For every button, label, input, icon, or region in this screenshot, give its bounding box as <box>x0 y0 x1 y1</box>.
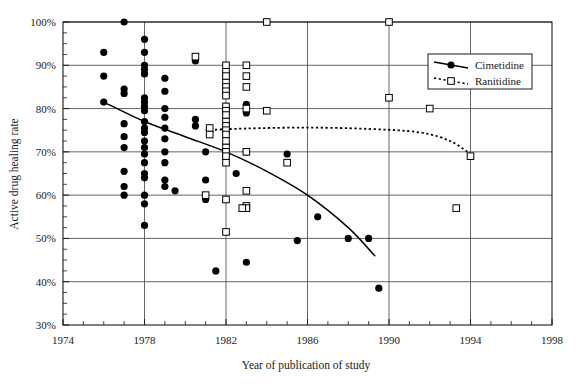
data-point-cimetidine <box>141 137 148 144</box>
x-tick-label: 1998 <box>541 334 564 346</box>
data-point-cimetidine <box>233 170 240 177</box>
y-tick-label: 60% <box>36 189 56 201</box>
data-point-cimetidine <box>100 73 107 80</box>
data-point-cimetidine <box>375 285 382 292</box>
data-point-ranitidine <box>467 153 474 160</box>
data-point-ranitidine <box>192 53 199 60</box>
data-point-cimetidine <box>121 192 128 199</box>
data-point-ranitidine <box>223 62 230 69</box>
data-point-cimetidine <box>141 107 148 114</box>
data-point-cimetidine <box>161 75 168 82</box>
data-point-cimetidine <box>100 98 107 105</box>
data-point-cimetidine <box>161 124 168 131</box>
data-point-ranitidine <box>386 19 393 26</box>
data-point-cimetidine <box>161 135 168 142</box>
y-tick-label: 80% <box>36 103 56 115</box>
data-point-cimetidine <box>161 159 168 166</box>
data-point-ranitidine <box>243 62 250 69</box>
chart-figure: 30%40%50%60%70%80%90%100%197419781982198… <box>0 0 581 387</box>
legend-label-cimetidine: Cimetidine <box>475 59 524 71</box>
data-point-cimetidine <box>121 18 128 25</box>
scatter-plot: 30%40%50%60%70%80%90%100%197419781982198… <box>0 0 581 387</box>
data-point-cimetidine <box>161 183 168 190</box>
data-point-cimetidine <box>202 148 209 155</box>
data-point-ranitidine <box>263 19 270 26</box>
data-point-cimetidine <box>202 176 209 183</box>
data-point-ranitidine <box>243 149 250 156</box>
data-point-cimetidine <box>294 237 301 244</box>
data-point-cimetidine <box>171 187 178 194</box>
legend-marker-ranitidine <box>448 78 455 85</box>
data-point-ranitidine <box>243 73 250 80</box>
data-point-ranitidine <box>426 105 433 112</box>
y-tick-label: 40% <box>36 276 56 288</box>
data-point-ranitidine <box>239 205 246 212</box>
data-point-cimetidine <box>284 150 291 157</box>
chart-legend: CimetidineRanitidine <box>428 54 532 89</box>
data-point-cimetidine <box>121 168 128 175</box>
x-tick-label: 1986 <box>297 334 320 346</box>
y-tick-label: 90% <box>36 59 56 71</box>
data-point-cimetidine <box>161 176 168 183</box>
data-point-ranitidine <box>223 153 230 160</box>
data-point-ranitidine <box>243 105 250 112</box>
data-point-cimetidine <box>141 192 148 199</box>
data-point-cimetidine <box>141 159 148 166</box>
data-point-cimetidine <box>161 88 168 95</box>
data-point-cimetidine <box>141 174 148 181</box>
y-tick-label: 50% <box>36 232 56 244</box>
x-axis-title: Year of publication of study <box>242 359 371 372</box>
data-point-ranitidine <box>386 94 393 101</box>
data-point-cimetidine <box>365 235 372 242</box>
data-point-cimetidine <box>121 90 128 97</box>
data-point-cimetidine <box>141 200 148 207</box>
data-point-cimetidine <box>121 133 128 140</box>
y-tick-label: 100% <box>30 16 56 28</box>
data-point-cimetidine <box>100 49 107 56</box>
data-point-cimetidine <box>121 183 128 190</box>
x-tick-label: 1974 <box>52 334 75 346</box>
data-point-cimetidine <box>121 120 128 127</box>
data-point-cimetidine <box>161 105 168 112</box>
data-point-ranitidine <box>453 205 460 212</box>
data-point-cimetidine <box>141 70 148 77</box>
legend-label-ranitidine: Ranitidine <box>475 75 521 87</box>
data-point-cimetidine <box>141 150 148 157</box>
y-tick-label: 70% <box>36 146 56 158</box>
data-point-cimetidine <box>192 122 199 129</box>
data-point-ranitidine <box>243 84 250 91</box>
data-point-ranitidine <box>284 159 291 166</box>
data-point-cimetidine <box>192 116 199 123</box>
data-point-cimetidine <box>121 144 128 151</box>
data-point-ranitidine <box>202 192 209 199</box>
x-tick-label: 1978 <box>134 334 157 346</box>
x-tick-label: 1994 <box>460 334 483 346</box>
data-point-cimetidine <box>141 118 148 125</box>
data-point-ranitidine <box>223 159 230 166</box>
data-point-ranitidine <box>223 196 230 203</box>
data-point-cimetidine <box>345 235 352 242</box>
data-point-cimetidine <box>161 148 168 155</box>
x-tick-label: 1982 <box>215 334 237 346</box>
data-point-cimetidine <box>141 144 148 151</box>
data-point-ranitidine <box>223 229 230 236</box>
data-point-ranitidine <box>223 131 230 138</box>
data-point-ranitidine <box>243 188 250 195</box>
data-point-ranitidine <box>223 138 230 145</box>
data-point-cimetidine <box>161 114 168 121</box>
data-point-cimetidine <box>141 36 148 43</box>
x-tick-label: 1990 <box>378 334 401 346</box>
legend-marker-cimetidine <box>447 61 454 68</box>
data-point-cimetidine <box>141 49 148 56</box>
data-point-ranitidine <box>223 92 230 99</box>
y-tick-label: 30% <box>36 319 56 331</box>
data-point-cimetidine <box>141 129 148 136</box>
data-point-ranitidine <box>223 73 230 80</box>
data-point-ranitidine <box>223 112 230 119</box>
y-axis-title: Active drug healing rate <box>8 118 21 229</box>
data-point-cimetidine <box>212 267 219 274</box>
data-point-ranitidine <box>263 107 270 114</box>
data-point-ranitidine <box>206 125 213 132</box>
data-point-cimetidine <box>141 222 148 229</box>
data-point-cimetidine <box>314 213 321 220</box>
